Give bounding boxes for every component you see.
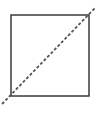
diagram-canvas: [0, 0, 98, 136]
dashed-diagonal-line: [2, 8, 95, 104]
